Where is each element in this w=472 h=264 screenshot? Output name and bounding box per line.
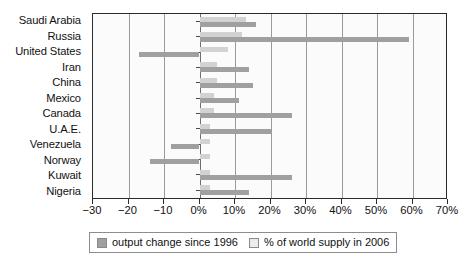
bar-output-change <box>171 144 199 149</box>
category-label: Nigeria <box>0 184 86 200</box>
category-label: Russia <box>0 29 86 45</box>
bar-world-supply <box>200 154 211 159</box>
axis-tick-label: 40% <box>329 205 351 216</box>
bar-output-change <box>200 22 257 27</box>
axis-tick-label: 50% <box>365 205 387 216</box>
legend-swatch-icon <box>249 238 259 248</box>
category-label: Mexico <box>0 91 86 107</box>
axis-tick-label: 0% <box>190 205 206 216</box>
bar-row <box>93 45 446 60</box>
bar-output-change <box>139 52 199 57</box>
bar-row <box>93 75 446 90</box>
bar-world-supply <box>200 47 228 52</box>
axis-tick-label: −10 <box>154 205 173 216</box>
axis-tick-label: 70% <box>436 205 458 216</box>
category-label: Kuwait <box>0 168 86 184</box>
bar-chart: Saudi ArabiaRussiaUnited StatesIranChina… <box>0 0 472 264</box>
category-axis-labels: Saudi ArabiaRussiaUnited StatesIranChina… <box>0 13 86 199</box>
bar-world-supply <box>200 139 211 144</box>
legend-label: % of world supply in 2006 <box>264 237 389 248</box>
bar-output-change <box>150 159 200 164</box>
bar-output-change <box>200 67 250 72</box>
category-label: U.A.E. <box>0 122 86 138</box>
bar-rows <box>93 14 446 198</box>
bar-row <box>93 183 446 198</box>
legend-swatch-icon <box>97 238 107 248</box>
category-label: China <box>0 75 86 91</box>
legend-label: output change since 1996 <box>112 237 238 248</box>
bar-row <box>93 29 446 44</box>
bar-output-change <box>200 37 409 42</box>
category-label: United States <box>0 44 86 60</box>
axis-tick-label: −30 <box>83 205 102 216</box>
bar-output-change <box>200 190 250 195</box>
bar-row <box>93 91 446 106</box>
bar-row <box>93 121 446 136</box>
bar-output-change <box>200 175 292 180</box>
axis-tick-label: 20% <box>258 205 280 216</box>
bar-output-change <box>200 113 292 118</box>
plot-area <box>92 13 447 199</box>
axis-tick-label: −20 <box>118 205 137 216</box>
axis-tick-label: 60% <box>400 205 422 216</box>
bar-row <box>93 106 446 121</box>
category-label: Saudi Arabia <box>0 13 86 29</box>
bar-row <box>93 14 446 29</box>
category-label: Iran <box>0 60 86 76</box>
bar-row <box>93 60 446 75</box>
category-label: Norway <box>0 153 86 169</box>
category-label: Canada <box>0 106 86 122</box>
chart-legend: output change since 1996% of world suppl… <box>89 232 397 253</box>
bar-row <box>93 152 446 167</box>
value-axis: −30−20−100%10%20%30%40%50%60%70% <box>92 199 447 200</box>
legend-item: % of world supply in 2006 <box>249 237 389 248</box>
axis-tick-label: 30% <box>294 205 316 216</box>
bar-output-change <box>200 83 253 88</box>
bar-row <box>93 137 446 152</box>
axis-tick-label: 10% <box>223 205 245 216</box>
bar-output-change <box>200 98 239 103</box>
bar-row <box>93 167 446 182</box>
category-label: Venezuela <box>0 137 86 153</box>
bar-output-change <box>200 129 271 134</box>
legend-item: output change since 1996 <box>97 237 238 248</box>
